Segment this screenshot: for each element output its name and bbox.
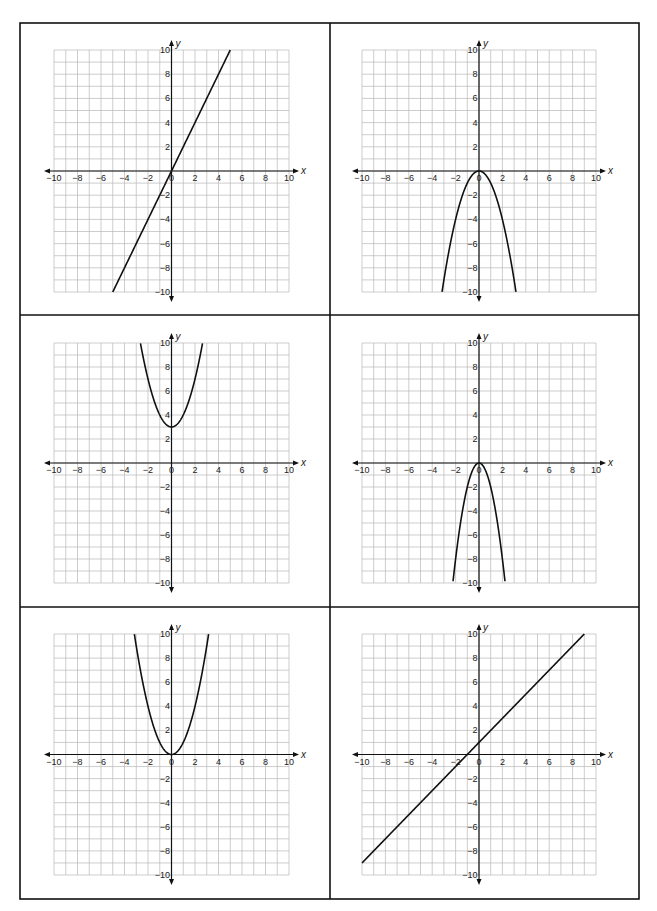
x-tick-label: −4 xyxy=(119,465,129,475)
x-tick-label: 6 xyxy=(239,173,244,183)
x-tick-label: −8 xyxy=(380,465,390,475)
axes: xy xyxy=(44,331,307,593)
x-tick-label: −2 xyxy=(143,173,153,183)
x-tick-label: 6 xyxy=(239,465,244,475)
y-tick-label: 4 xyxy=(165,118,170,128)
y-tick-label: −6 xyxy=(467,239,477,249)
x-tick-label: 2 xyxy=(192,465,197,475)
y-tick-label: 4 xyxy=(472,410,477,420)
y-tick-label: 6 xyxy=(472,93,477,103)
x-tick-label: −2 xyxy=(450,173,460,183)
x-tick-label: 2 xyxy=(192,757,197,767)
y-tick-label: 8 xyxy=(165,69,170,79)
x-tick-label: −4 xyxy=(119,173,129,183)
y-tick-label: −10 xyxy=(462,870,477,880)
y-tick-label: 2 xyxy=(165,434,170,444)
x-tick-label: −10 xyxy=(46,173,61,183)
x-tick-label: 2 xyxy=(500,757,505,767)
x-axis-label: x xyxy=(300,165,307,176)
x-tick-label: 10 xyxy=(284,465,294,475)
y-tick-label: 10 xyxy=(160,45,170,55)
y-tick-label: −8 xyxy=(160,846,170,856)
y-tick-label: 8 xyxy=(472,69,477,79)
y-tick-label: −6 xyxy=(160,239,170,249)
y-tick-label: −10 xyxy=(462,287,477,297)
y-tick-label: −8 xyxy=(160,263,170,273)
x-axis-label: x xyxy=(300,749,307,760)
x-tick-label: −2 xyxy=(143,465,153,475)
coordinate-plane-5: xy−10−8−6−4−20246810108642−2−4−6−8−10 xyxy=(44,622,307,885)
x-tick-label: 6 xyxy=(239,757,244,767)
x-tick-label: −2 xyxy=(450,465,460,475)
y-tick-label: 6 xyxy=(165,677,170,687)
y-tick-label: 10 xyxy=(160,338,170,348)
y-axis-label: y xyxy=(175,622,182,633)
x-axis-label: x xyxy=(300,457,307,468)
coordinate-plane-3: xy−10−8−6−4−20246810108642−2−4−6−8−10 xyxy=(44,331,307,593)
x-tick-label: 8 xyxy=(263,465,268,475)
x-tick-label: −6 xyxy=(404,465,414,475)
y-tick-label: −10 xyxy=(155,870,170,880)
x-tick-label: 4 xyxy=(523,465,528,475)
y-tick-label: 10 xyxy=(467,45,477,55)
y-tick-label: −4 xyxy=(467,798,477,808)
y-tick-label: −8 xyxy=(467,263,477,273)
x-tick-label: −6 xyxy=(404,757,414,767)
x-tick-label: −6 xyxy=(96,465,106,475)
x-tick-label: −8 xyxy=(380,173,390,183)
x-tick-label: 4 xyxy=(523,757,528,767)
x-axis-label: x xyxy=(607,165,614,176)
y-tick-label: −4 xyxy=(467,214,477,224)
x-tick-label: 0 xyxy=(476,757,481,767)
y-tick-label: −6 xyxy=(160,822,170,832)
coordinate-plane-2: xy−10−8−6−4−20246810108642−2−4−6−8−10 xyxy=(352,38,614,302)
y-tick-label: 8 xyxy=(472,362,477,372)
x-tick-label: 4 xyxy=(523,173,528,183)
x-tick-label: −8 xyxy=(72,465,82,475)
y-tick-label: 10 xyxy=(160,629,170,639)
x-axis-label: x xyxy=(607,457,614,468)
x-tick-label: 4 xyxy=(216,757,221,767)
coordinate-plane-4: xy−10−8−6−4−20246810108642−2−4−6−8−10 xyxy=(352,331,614,593)
axes: xy xyxy=(352,331,614,593)
y-tick-label: 4 xyxy=(472,701,477,711)
x-tick-label: 4 xyxy=(216,465,221,475)
x-tick-label: −4 xyxy=(427,465,437,475)
y-tick-label: 10 xyxy=(467,629,477,639)
x-tick-label: 8 xyxy=(263,173,268,183)
x-tick-label: 8 xyxy=(570,465,575,475)
x-tick-label: −10 xyxy=(46,465,61,475)
y-tick-label: −8 xyxy=(467,846,477,856)
x-tick-label: 0 xyxy=(476,173,481,183)
axes: xy xyxy=(44,38,307,302)
y-tick-label: −4 xyxy=(160,214,170,224)
x-tick-label: −2 xyxy=(450,757,460,767)
x-tick-label: 0 xyxy=(476,465,481,475)
y-tick-label: 2 xyxy=(472,725,477,735)
x-tick-label: 6 xyxy=(547,757,552,767)
x-tick-label: −6 xyxy=(96,173,106,183)
axes: xy xyxy=(352,38,614,302)
y-tick-label: −2 xyxy=(467,774,477,784)
x-tick-label: 0 xyxy=(169,757,174,767)
y-tick-label: −6 xyxy=(160,530,170,540)
y-tick-label: 4 xyxy=(165,701,170,711)
y-tick-label: 6 xyxy=(472,677,477,687)
y-tick-label: −10 xyxy=(462,578,477,588)
y-tick-label: −8 xyxy=(467,554,477,564)
y-axis-label: y xyxy=(175,38,182,49)
x-tick-label: −8 xyxy=(380,757,390,767)
x-tick-label: −10 xyxy=(46,757,61,767)
coordinate-plane-1: xy−10−8−6−4−20246810108642−2−4−6−8−10 xyxy=(44,38,307,302)
x-tick-label: 2 xyxy=(500,173,505,183)
y-tick-label: 2 xyxy=(472,434,477,444)
y-tick-label: 2 xyxy=(165,142,170,152)
y-axis-label: y xyxy=(482,38,489,49)
y-tick-label: 2 xyxy=(472,142,477,152)
x-tick-label: −8 xyxy=(72,757,82,767)
y-tick-label: 8 xyxy=(165,653,170,663)
x-tick-label: 2 xyxy=(500,465,505,475)
x-tick-label: −10 xyxy=(354,465,369,475)
y-tick-label: 6 xyxy=(165,386,170,396)
y-tick-label: 4 xyxy=(472,118,477,128)
